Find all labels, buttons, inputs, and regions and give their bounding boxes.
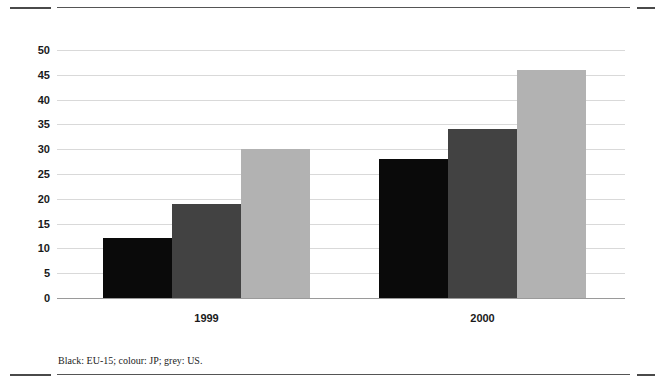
bar-chart: 05101520253035404550 19992000 [0, 0, 655, 392]
gridline-0 [57, 298, 625, 299]
y-tick-label-20: 20 [10, 193, 50, 204]
y-tick-label-45: 45 [10, 69, 50, 80]
y-tick-label-25: 25 [10, 169, 50, 180]
figure-caption: Black: EU-15; colour: JP; grey: US. [58, 355, 202, 366]
y-tick-label-40: 40 [10, 94, 50, 105]
bar-2000-jp [448, 129, 517, 298]
bar-1999-jp [172, 204, 241, 298]
y-tick-label-10: 10 [10, 243, 50, 254]
bar-2000-us [517, 70, 586, 298]
bar-1999-us [241, 149, 310, 298]
x-tick-label-2000: 2000 [470, 312, 494, 324]
y-tick-label-5: 5 [10, 268, 50, 279]
y-tick-label-50: 50 [10, 45, 50, 56]
bar-2000-eu-15 [379, 159, 448, 298]
plot-bars [57, 50, 625, 298]
bar-1999-eu-15 [103, 238, 172, 298]
x-tick-label-1999: 1999 [194, 312, 218, 324]
y-tick-label-15: 15 [10, 218, 50, 229]
y-tick-label-0: 0 [10, 293, 50, 304]
y-tick-label-35: 35 [10, 119, 50, 130]
y-tick-label-30: 30 [10, 144, 50, 155]
y-axis: 05101520253035404550 [0, 50, 50, 298]
